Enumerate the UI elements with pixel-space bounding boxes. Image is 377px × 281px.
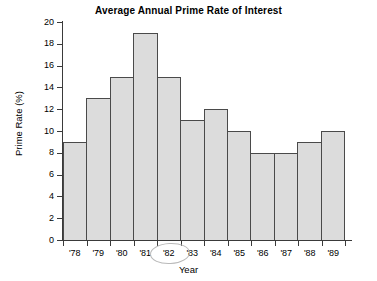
y-tick-mark (57, 44, 62, 45)
chart-title: Average Annual Prime Rate of Interest (0, 5, 377, 16)
y-tick-label: 16 (30, 61, 54, 70)
y-axis-title: Prime Rate (%) (13, 64, 24, 184)
y-tick-label: 14 (30, 83, 54, 92)
bar-88 (297, 142, 321, 240)
bar-83 (180, 120, 204, 240)
x-tick-mark (298, 241, 299, 246)
y-tick-label: 4 (30, 192, 54, 201)
y-tick-mark (57, 153, 62, 154)
bar-81 (133, 33, 157, 240)
y-tick-mark (57, 240, 62, 241)
y-tick-label: 12 (30, 105, 54, 114)
y-tick-mark (57, 109, 62, 110)
bar-chart: Average Annual Prime Rate of Interest 02… (0, 0, 377, 281)
bar-87 (274, 153, 298, 240)
x-tick-mark (63, 241, 64, 246)
x-tick-mark (204, 241, 205, 246)
y-tick-mark (57, 87, 62, 88)
y-tick-mark (57, 66, 62, 67)
y-tick-mark (57, 175, 62, 176)
y-tick-mark (57, 218, 62, 219)
bar-series (63, 22, 345, 240)
bar-79 (86, 98, 110, 240)
bar-85 (227, 131, 251, 240)
y-tick-label: 18 (30, 39, 54, 48)
x-tick-mark (110, 241, 111, 246)
y-tick-mark (57, 131, 62, 132)
y-tick-label: 0 (30, 236, 54, 245)
x-tick-mark (275, 241, 276, 246)
y-tick-label: 20 (30, 18, 54, 27)
bar-89 (321, 131, 345, 240)
y-tick-label: 2 (30, 214, 54, 223)
bar-84 (204, 109, 228, 240)
plot-area (63, 22, 345, 240)
x-tick-mark (228, 241, 229, 246)
x-tick-mark (251, 241, 252, 246)
bar-80 (110, 77, 134, 241)
x-tick-mark (345, 241, 346, 246)
bar-82 (157, 77, 181, 241)
x-tick-mark (157, 241, 158, 246)
bar-78 (63, 142, 87, 240)
x-axis-line (62, 240, 352, 241)
x-tick-label: '89 (318, 248, 348, 258)
y-tick-label: 8 (30, 148, 54, 157)
x-tick-mark (134, 241, 135, 246)
bar-86 (250, 153, 274, 240)
y-tick-mark (57, 196, 62, 197)
y-tick-mark (57, 22, 62, 23)
x-tick-mark (322, 241, 323, 246)
x-axis-title: Year (0, 264, 377, 275)
y-tick-label: 6 (30, 170, 54, 179)
x-tick-mark (87, 241, 88, 246)
y-tick-label: 10 (30, 127, 54, 136)
x-tick-mark (181, 241, 182, 246)
